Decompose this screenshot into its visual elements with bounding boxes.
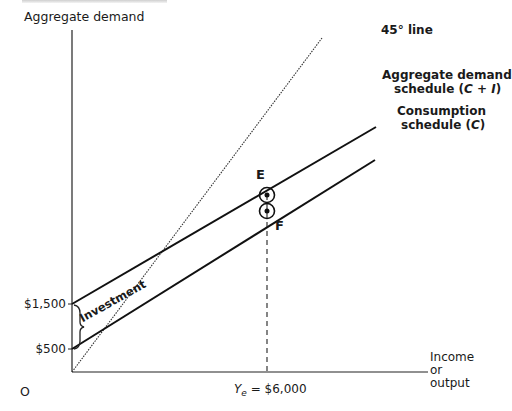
- ad-post: ): [496, 82, 501, 96]
- label-45-line: 45° line: [381, 23, 433, 37]
- tick-label-1500: $1,500: [14, 297, 66, 311]
- c-pre: schedule (: [401, 118, 471, 132]
- line-aggregate-demand: [72, 127, 376, 304]
- point-f-label: F: [275, 219, 284, 233]
- c-italic: C: [471, 118, 480, 132]
- label-ad-line2: schedule (C + I): [382, 82, 492, 96]
- label-ad-line1: Aggregate demand: [382, 68, 492, 82]
- line-consumption: [72, 160, 375, 349]
- line-45-degree: [72, 38, 322, 372]
- label-c-line2: schedule (C): [397, 118, 486, 132]
- origin-label: O: [20, 385, 30, 399]
- y-axis-label: Aggregate demand: [24, 10, 144, 24]
- c-post: ): [480, 118, 485, 132]
- point-e-dot: [265, 193, 270, 198]
- label-c-line1: Consumption: [397, 104, 486, 118]
- ad-pre: schedule (: [394, 82, 464, 96]
- label-consumption: Consumption schedule (C): [397, 104, 486, 132]
- x-axis-label: Income or output: [430, 351, 474, 390]
- tick-label-500: $500: [14, 342, 66, 356]
- ye-value: = $6,000: [247, 382, 307, 396]
- point-e-label: E: [256, 168, 265, 182]
- x-label-line3: output: [430, 377, 474, 390]
- label-aggregate-demand: Aggregate demand schedule (C + I): [382, 68, 492, 96]
- x-tick-ye: Ye = $6,000: [234, 382, 307, 400]
- ad-italic: C + I: [464, 82, 496, 96]
- point-f-dot: [265, 209, 270, 214]
